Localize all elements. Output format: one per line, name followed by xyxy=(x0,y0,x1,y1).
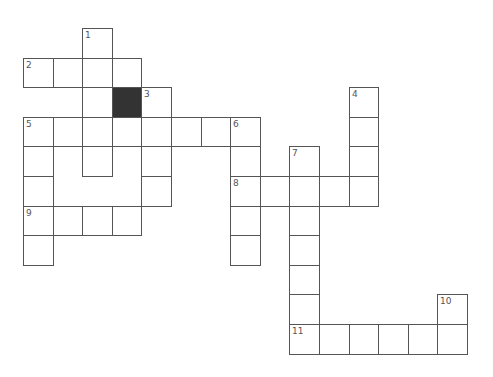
crossword-cell[interactable] xyxy=(201,117,231,147)
crossword-cell[interactable] xyxy=(230,235,261,266)
crossword-cell[interactable]: 2 xyxy=(23,58,54,88)
crossword-cell[interactable] xyxy=(230,206,261,236)
crossword-cell[interactable] xyxy=(141,176,172,207)
crossword-cell[interactable] xyxy=(289,206,320,236)
crossword-cell[interactable]: 10 xyxy=(437,294,468,325)
clue-number: 3 xyxy=(144,89,150,99)
clue-number: 4 xyxy=(352,89,358,99)
crossword-cell[interactable] xyxy=(82,87,113,118)
crossword-cell[interactable] xyxy=(82,146,113,177)
crossword-cell[interactable] xyxy=(289,235,320,266)
blocked-cell xyxy=(112,87,142,118)
crossword-cell[interactable] xyxy=(437,324,468,355)
crossword-cell[interactable] xyxy=(112,206,142,236)
clue-number: 9 xyxy=(26,208,32,218)
crossword-cell[interactable]: 11 xyxy=(289,324,320,355)
crossword-cell[interactable] xyxy=(349,146,379,177)
crossword-cell[interactable] xyxy=(319,324,350,355)
crossword-cell[interactable] xyxy=(23,176,54,207)
crossword-cell[interactable] xyxy=(349,117,379,147)
crossword-grid: 1234569871110 xyxy=(0,0,493,377)
crossword-cell[interactable]: 3 xyxy=(141,87,172,118)
crossword-cell[interactable] xyxy=(289,294,320,325)
crossword-cell[interactable] xyxy=(378,324,409,355)
crossword-cell[interactable] xyxy=(82,206,113,236)
crossword-cell[interactable]: 7 xyxy=(289,146,320,177)
clue-number: 11 xyxy=(292,326,303,336)
crossword-cell[interactable] xyxy=(112,117,142,147)
crossword-cell[interactable] xyxy=(53,117,83,147)
crossword-cell[interactable] xyxy=(289,265,320,295)
crossword-cell[interactable] xyxy=(53,58,83,88)
crossword-cell[interactable]: 6 xyxy=(230,117,261,147)
crossword-cell[interactable] xyxy=(349,176,379,207)
crossword-cell[interactable] xyxy=(319,176,350,207)
clue-number: 10 xyxy=(440,296,451,306)
crossword-cell[interactable] xyxy=(260,176,290,207)
crossword-cell[interactable] xyxy=(23,146,54,177)
clue-number: 6 xyxy=(233,119,239,129)
crossword-cell[interactable] xyxy=(82,117,113,147)
crossword-cell[interactable]: 9 xyxy=(23,206,54,236)
crossword-cell[interactable]: 5 xyxy=(23,117,54,147)
crossword-cell[interactable] xyxy=(23,235,54,266)
crossword-cell[interactable]: 8 xyxy=(230,176,261,207)
crossword-cell[interactable]: 4 xyxy=(349,87,379,118)
crossword-cell[interactable] xyxy=(349,324,379,355)
clue-number: 5 xyxy=(26,119,32,129)
clue-number: 2 xyxy=(26,60,32,70)
crossword-cell[interactable] xyxy=(141,117,172,147)
crossword-cell[interactable] xyxy=(141,146,172,177)
clue-number: 8 xyxy=(233,178,239,188)
crossword-cell[interactable] xyxy=(112,58,142,88)
crossword-cell[interactable] xyxy=(230,146,261,177)
crossword-cell[interactable]: 1 xyxy=(82,28,113,59)
clue-number: 7 xyxy=(292,148,298,158)
crossword-cell[interactable] xyxy=(171,117,202,147)
crossword-cell[interactable] xyxy=(82,58,113,88)
crossword-cell[interactable] xyxy=(289,176,320,207)
clue-number: 1 xyxy=(85,30,91,40)
crossword-cell[interactable] xyxy=(53,206,83,236)
crossword-cell[interactable] xyxy=(408,324,438,355)
